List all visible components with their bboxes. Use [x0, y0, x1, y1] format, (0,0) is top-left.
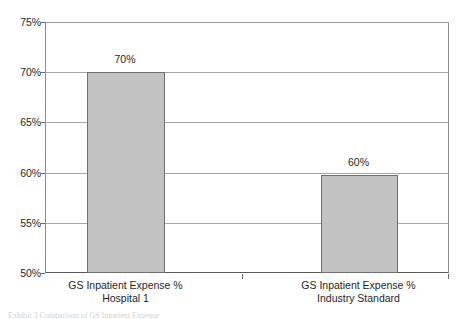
y-tick-mark-50: [40, 273, 45, 274]
x-category-hospital-1: GS Inpatient Expense % Hospital 1: [58, 279, 193, 304]
y-tick-label-55: 55%: [1, 218, 41, 228]
data-label-industry-standard: 60%: [320, 157, 397, 168]
x-category-industry-standard-line1: GS Inpatient Expense %: [301, 279, 415, 291]
x-tick-mark-right: [448, 274, 449, 279]
cut-off-caption: Exhibit 3 Comparison of GS Inpatient Exp…: [8, 311, 298, 319]
data-label-hospital-1: 70%: [86, 54, 164, 65]
x-category-hospital-1-line2: Hospital 1: [58, 292, 193, 305]
bar-industry-standard[interactable]: [321, 175, 398, 273]
y-tick-label-60: 60%: [1, 168, 41, 178]
y-tick-label-75: 75%: [1, 17, 41, 27]
y-tick-label-65: 65%: [1, 117, 41, 127]
x-category-industry-standard: GS Inpatient Expense % Industry Standard: [291, 279, 426, 304]
y-tick-label-50: 50%: [1, 268, 41, 278]
y-tick-label-70: 70%: [1, 67, 41, 77]
x-category-industry-standard-line2: Industry Standard: [291, 292, 426, 305]
bar-hospital-1[interactable]: [87, 72, 165, 273]
x-category-hospital-1-line1: GS Inpatient Expense %: [68, 279, 182, 291]
x-tick-mark-mid: [242, 274, 243, 279]
bar-chart: 75% 70% 65% 60% 55% 50% 70% 60% GS Inpat…: [0, 0, 463, 319]
